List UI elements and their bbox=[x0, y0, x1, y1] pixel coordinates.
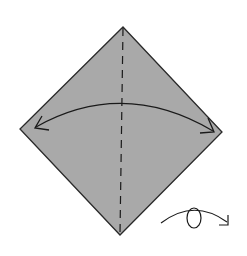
turn-over-arc bbox=[161, 210, 227, 223]
origami-diagram bbox=[0, 0, 247, 256]
turn-over-loop bbox=[187, 208, 201, 228]
turn-over-icon bbox=[161, 208, 228, 228]
